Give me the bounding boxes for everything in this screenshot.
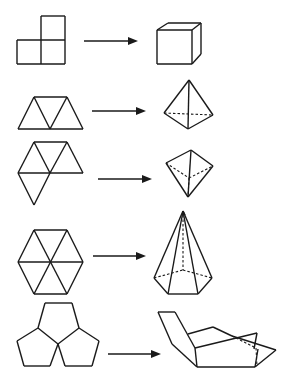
arrow-head-icon xyxy=(128,37,138,45)
arrow-icon xyxy=(98,175,152,183)
solid-edge xyxy=(164,113,188,129)
net-edge xyxy=(34,142,50,173)
row-hexagonal-pyramid xyxy=(18,211,212,294)
solid-edge xyxy=(188,327,213,334)
solid-edge xyxy=(254,333,257,349)
hexagonal-pyramid-net xyxy=(18,230,83,294)
solid-edge xyxy=(154,211,183,278)
solid-edge xyxy=(213,327,232,336)
row-triangular-pyramid xyxy=(18,142,213,205)
net-edge xyxy=(72,303,79,328)
net-edge xyxy=(34,173,50,205)
solid-edge xyxy=(255,350,276,367)
triangular-pyramid-net xyxy=(18,142,83,205)
arrow-icon xyxy=(92,107,146,115)
pentagon-net xyxy=(17,303,99,366)
hidden-edge xyxy=(183,270,212,278)
net-edge xyxy=(18,97,34,129)
solid-edge xyxy=(191,150,213,166)
solid-edge xyxy=(183,211,198,294)
solid-edge xyxy=(188,166,213,197)
net-edge xyxy=(50,344,58,366)
net-edge xyxy=(58,344,65,366)
net-edge xyxy=(67,230,83,262)
tetrahedron-solid xyxy=(164,80,213,129)
hexagonal-pyramid-solid xyxy=(154,211,212,294)
net-edge xyxy=(18,173,34,205)
arrow-icon xyxy=(108,350,161,358)
cube-net xyxy=(17,16,65,64)
triangular-pyramid-solid xyxy=(166,150,213,197)
solid-edge xyxy=(175,312,195,348)
pentagon-folded-solid xyxy=(158,312,276,367)
solid-edge xyxy=(195,348,197,367)
arrow-head-icon xyxy=(136,252,146,260)
arrow-icon xyxy=(93,252,146,260)
solid-edge xyxy=(166,150,191,163)
arrow-head-icon xyxy=(142,175,152,183)
net-edge xyxy=(67,142,83,173)
net-edge xyxy=(17,328,38,341)
net-edge xyxy=(92,341,99,366)
net-edge xyxy=(38,303,45,328)
hidden-edge xyxy=(154,270,183,278)
nets-to-solids-diagram: Nets folding into 3D solids xyxy=(0,0,291,385)
hidden-edge xyxy=(166,163,189,178)
net-edge xyxy=(17,341,24,366)
arrow-head-icon xyxy=(136,107,146,115)
net-edge xyxy=(18,142,34,173)
net-edge xyxy=(50,142,67,173)
solid-edge xyxy=(189,80,213,115)
net-edge xyxy=(18,262,34,294)
solid-edge xyxy=(158,312,172,344)
solid-edge xyxy=(172,344,197,367)
tetrahedron-net xyxy=(18,97,83,129)
net-edge xyxy=(67,262,83,294)
solid-edge xyxy=(198,278,212,294)
row-tetrahedron xyxy=(18,80,213,129)
solid-edge xyxy=(164,80,189,113)
solid-edge xyxy=(154,278,168,294)
net-edge xyxy=(67,97,83,129)
solid-edge xyxy=(183,211,212,278)
solid-edge xyxy=(168,211,183,294)
solid-edge xyxy=(188,150,191,197)
cube-solid xyxy=(157,23,201,64)
arrow-head-icon xyxy=(151,350,161,358)
arrow-icon xyxy=(84,37,138,45)
net-edge xyxy=(79,328,99,341)
hidden-edge xyxy=(189,166,213,178)
solid-edge xyxy=(157,23,168,30)
solid-edge xyxy=(188,115,213,129)
net-edge xyxy=(18,230,34,262)
net-edge xyxy=(34,97,50,129)
row-cube xyxy=(17,16,201,64)
solid-edge xyxy=(166,163,188,197)
net-edge xyxy=(38,328,58,344)
row-pentagon-solid xyxy=(17,303,276,367)
solid-edge xyxy=(192,54,201,64)
solid-edge xyxy=(188,80,189,129)
solid-edge xyxy=(192,23,201,30)
net-edge xyxy=(50,97,67,129)
net-edge xyxy=(58,328,79,344)
